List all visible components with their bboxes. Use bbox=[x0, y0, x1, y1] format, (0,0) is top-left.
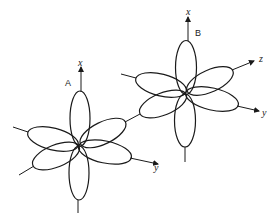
lobe-a-bottom bbox=[69, 146, 89, 200]
orbital-a: A x y bbox=[13, 57, 159, 213]
lobe-a-upper-right bbox=[76, 112, 131, 154]
label-b-x-axis: x bbox=[185, 6, 191, 17]
label-a-y-axis: y bbox=[153, 162, 159, 173]
lobe-b-upper-right bbox=[183, 61, 238, 101]
lobe-b-top bbox=[176, 41, 197, 95]
axis-a-z-toward-b bbox=[125, 114, 140, 122]
label-a-x-axis: x bbox=[77, 57, 83, 68]
orbital-diagram: A x y B x z y bbox=[0, 0, 277, 219]
axis-b-z-arrow bbox=[232, 61, 254, 70]
axis-a-y-tail bbox=[13, 127, 28, 132]
label-b-y-axis: y bbox=[261, 107, 267, 118]
lobe-b-lower-right bbox=[183, 82, 241, 116]
axis-b-y-tail bbox=[121, 74, 136, 78]
lobe-a-upper-left bbox=[25, 122, 81, 156]
axis-a-z-tail-lower bbox=[19, 166, 34, 175]
axis-b-y-arrow bbox=[237, 106, 259, 111]
orbital-b: B x z y bbox=[121, 6, 267, 162]
label-b-z-axis: z bbox=[258, 53, 263, 64]
lobe-a-top bbox=[70, 91, 90, 146]
label-atom-a: A bbox=[65, 78, 71, 88]
label-atom-b: B bbox=[195, 28, 201, 38]
